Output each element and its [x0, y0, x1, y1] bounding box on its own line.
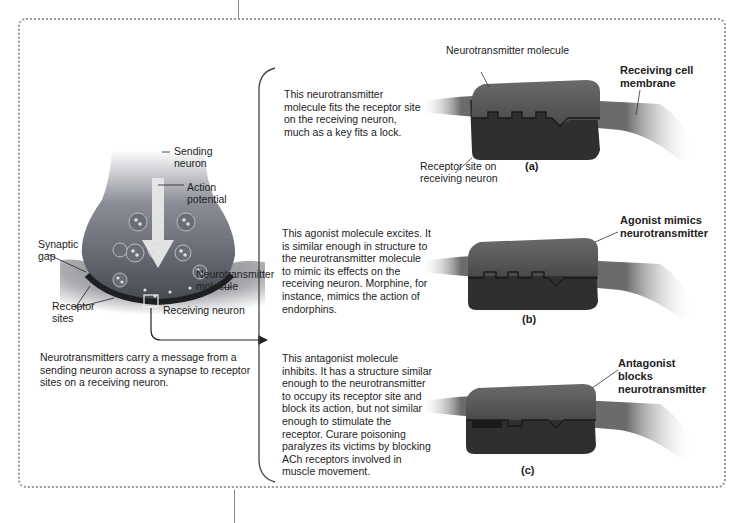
label-sending-neuron: Sending neuron: [174, 145, 213, 169]
label-synaptic-gap: Synaptic gap: [38, 238, 78, 262]
label-antagonist-blocks: Antagonist blocks neurotransmitter: [618, 357, 706, 396]
label-neurotransmitter-molecule-top: Neurotransmitter molecule: [446, 44, 569, 56]
bottom-margin-tick: [234, 490, 235, 523]
synapse-drawing: [40, 140, 280, 320]
label-receiving-cell-membrane: Receiving cell membrane: [620, 64, 693, 90]
label-receptor-sites: Receptor sites: [52, 300, 95, 324]
panel-b-caption-letter: (b): [522, 313, 536, 325]
panel-bracket: [255, 66, 285, 486]
label-receptor-site: Receptor site on receiving neuron: [420, 160, 498, 184]
panel-a-caption-letter: (a): [525, 160, 538, 172]
label-agonist-mimics: Agonist mimics neurotransmitter: [620, 214, 708, 240]
label-action-potential: Action potential: [187, 181, 227, 205]
panel-c-caption-letter: (c): [521, 464, 534, 476]
top-margin-tick: [238, 0, 239, 18]
label-receiving-neuron: Receiving neuron: [163, 304, 245, 316]
synapse-caption: Neurotransmitters carry a message from a…: [40, 351, 270, 389]
